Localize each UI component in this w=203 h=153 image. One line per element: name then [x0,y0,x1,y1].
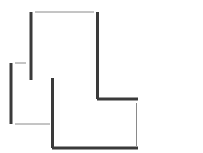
diagram-segments [11,12,138,148]
line-diagram [0,0,203,153]
